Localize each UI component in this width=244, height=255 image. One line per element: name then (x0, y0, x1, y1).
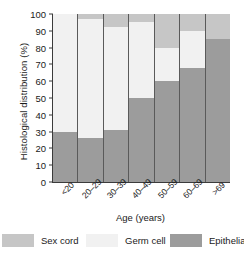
y-axis-tick: 70 (35, 59, 53, 70)
bar-column[interactable] (180, 14, 205, 182)
y-axis-tick-label: 90 (35, 25, 49, 36)
legend-item[interactable]: Epithelial (170, 231, 242, 250)
bar-segment-sex-cord[interactable] (104, 14, 128, 27)
legend-label: Epithelial (202, 235, 244, 246)
x-axis-title: Age (years) (52, 212, 229, 223)
y-axis-tick: 50 (35, 93, 53, 104)
y-axis-tick-label: 80 (35, 42, 49, 53)
bar-segment-sex-cord[interactable] (180, 14, 204, 31)
legend-item[interactable]: Germ cell (86, 231, 170, 250)
y-axis-tick: 80 (35, 42, 53, 53)
y-axis-tick-label: 60 (35, 76, 49, 87)
legend-label: Germ cell (118, 235, 166, 246)
bar-series-group (53, 14, 230, 182)
bar-segment-epithelial[interactable] (78, 138, 102, 182)
bar-segment-germ-cell[interactable] (78, 19, 102, 138)
y-axis-tick-label: 0 (41, 177, 49, 188)
y-axis-tick: 90 (35, 25, 53, 36)
chart-legend: Sex cordGerm cellEpithelial (2, 231, 242, 250)
y-axis-tick: 100 (30, 9, 53, 20)
bar-segment-sex-cord[interactable] (155, 14, 179, 48)
bar-segment-epithelial[interactable] (206, 39, 230, 182)
x-axis-tick-label: <20 (58, 180, 75, 197)
y-axis-tick: 60 (35, 76, 53, 87)
y-axis-tick: 10 (35, 160, 53, 171)
legend-item[interactable]: Sex cord (2, 231, 86, 250)
legend-label: Sex cord (34, 235, 79, 246)
y-axis-tick: 30 (35, 126, 53, 137)
bar-column[interactable] (78, 14, 103, 182)
y-axis-tick-label: 100 (30, 9, 49, 20)
bar-segment-germ-cell[interactable] (53, 14, 77, 132)
bar-column[interactable] (155, 14, 180, 182)
legend-swatch-germ-cell (86, 234, 118, 247)
bar-segment-germ-cell[interactable] (155, 48, 179, 82)
legend-swatch-sex-cord (2, 234, 34, 247)
y-axis-tick-label: 40 (35, 109, 49, 120)
x-axis-tick-label: >69 (210, 180, 227, 197)
bar-segment-sex-cord[interactable] (129, 14, 153, 22)
y-axis-tick-label: 50 (35, 93, 49, 104)
bar-column[interactable] (104, 14, 129, 182)
y-axis-tick-label: 30 (35, 126, 49, 137)
bar-segment-epithelial[interactable] (53, 132, 77, 182)
bar-segment-epithelial[interactable] (129, 98, 153, 182)
bar-segment-germ-cell[interactable] (104, 27, 128, 129)
y-axis-tick-label: 20 (35, 143, 49, 154)
chart-figure: Histological distribution (%) 1009080706… (0, 0, 244, 255)
bar-segment-germ-cell[interactable] (180, 31, 204, 68)
bar-column[interactable] (129, 14, 154, 182)
plot-area: 1009080706050403020100 (52, 14, 230, 183)
y-axis-title: Histological distribution (%) (18, 17, 29, 187)
y-axis-tick-label: 10 (35, 160, 49, 171)
y-axis-tick: 20 (35, 143, 53, 154)
y-axis-tick: 40 (35, 109, 53, 120)
bar-segment-epithelial[interactable] (104, 130, 128, 182)
bar-segment-epithelial[interactable] (180, 68, 204, 182)
bar-segment-germ-cell[interactable] (129, 22, 153, 98)
legend-swatch-epithelial (170, 234, 202, 247)
bar-segment-epithelial[interactable] (155, 81, 179, 182)
bar-column[interactable] (206, 14, 230, 182)
y-axis-tick-label: 70 (35, 59, 49, 70)
bar-column[interactable] (53, 14, 78, 182)
bar-segment-sex-cord[interactable] (206, 14, 230, 39)
